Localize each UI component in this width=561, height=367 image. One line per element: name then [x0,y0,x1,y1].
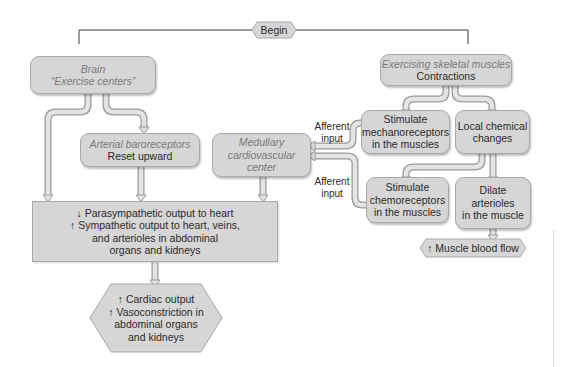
chemical-line-2: changes [473,132,513,145]
mechano-line-3: in the muscles [372,138,439,151]
medullary-line-3: center [247,161,276,174]
chemo-line-2: chemoreceptors [370,194,445,207]
medullary-cardiovascular-center-node: Medullary cardiovascular center [212,133,311,177]
page-edge-divider [553,230,554,367]
muscles-subtitle: Contractions [417,70,476,83]
exercising-skeletal-muscles-node: Exercising skeletal muscles Contractions [380,54,512,86]
medullary-line-2: cardiovascular [228,149,296,162]
cardiac-line-2: ↑ Vasoconstriction in [108,306,204,319]
medullary-line-1: Medullary [239,136,285,149]
output-line-1: ↓ Parasympathetic output to heart [76,207,233,220]
autonomic-output-node: ↓ Parasympathetic output to heart ↑ Symp… [32,201,278,262]
output-line-3: and arterioles in abdominal [92,232,218,245]
cardiac-line-1: ↑ Cardiac output [118,293,194,306]
exercise-cardiovascular-flowchart: Begin Brain “Exercise centers” Arterial … [0,0,561,367]
brain-subtitle: “Exercise centers” [51,75,136,88]
dilate-line-3: in the muscle [462,209,524,222]
stimulate-chemoreceptors-node: Stimulate chemoreceptors in the muscles [366,177,449,223]
baroreceptors-subtitle: Reset upward [108,150,173,163]
begin-label: Begin [261,24,288,37]
stimulate-mechanoreceptors-node: Stimulate mechanoreceptors in the muscle… [361,110,450,154]
muscle-flow-label: ↑ Muscle blood flow [427,242,519,255]
output-line-4: organs and kidneys [109,244,200,257]
brain-title: Brain [81,63,106,76]
dilate-line-2: arterioles [471,197,514,210]
chemo-line-1: Stimulate [386,181,430,194]
muscles-title: Exercising skeletal muscles [382,58,510,71]
brain-exercise-centers-node: Brain “Exercise centers” [30,56,156,94]
arterial-baroreceptors-node: Arterial baroreceptors Reset upward [80,133,200,167]
output-line-2: ↑ Sympathetic output to heart, veins, [70,219,240,232]
chemo-line-3: in the muscles [374,206,441,219]
cardiac-output-result-node: ↑ Cardiac output ↑ Vasoconstriction in a… [89,283,223,353]
cardiac-line-3: abdominal organs [114,318,197,331]
mechano-line-1: Stimulate [384,113,428,126]
dilate-arterioles-node: Dilate arterioles in the muscle [455,177,531,229]
afferent-top-line-2: input [312,133,352,145]
cardiac-line-4: and kidneys [128,331,184,344]
mechano-line-2: mechanoreceptors [362,126,449,139]
dilate-line-1: Dilate [480,184,507,197]
afferent-bottom-line-2: input [312,188,352,200]
begin-node: Begin [251,21,297,39]
afferent-input-label-bottom: Afferent input [312,176,352,200]
afferent-input-label-top: Afferent input [312,121,352,145]
afferent-top-line-1: Afferent [312,121,352,133]
baroreceptors-title: Arterial baroreceptors [90,138,191,151]
afferent-bottom-line-1: Afferent [312,176,352,188]
local-chemical-changes-node: Local chemical changes [455,110,530,154]
chemical-line-1: Local chemical [458,120,527,133]
muscle-blood-flow-result-node: ↑ Muscle blood flow [419,238,527,258]
